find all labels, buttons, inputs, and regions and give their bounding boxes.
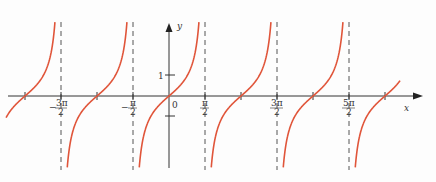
tan-branch-5	[355, 81, 400, 168]
origin-label: 0	[172, 100, 178, 110]
tick-label-3pi-2: 3π 2	[270, 98, 283, 117]
svg-text:2: 2	[58, 107, 64, 117]
plot-area: y x 1 0 − 3π 2 − π 2 π 2 3π 2 5π 2	[0, 0, 436, 182]
y-axis-arrow-icon	[166, 23, 173, 32]
x-axis-label: x	[404, 103, 409, 113]
tangent-graph: y x 1 0 − 3π 2 − π 2 π 2 3π 2 5π 2	[0, 0, 436, 182]
y-axis-label: y	[176, 21, 183, 31]
y-tick-label-1: 1	[158, 71, 164, 81]
tan-curves	[6, 22, 400, 167]
svg-text:−: −	[121, 102, 129, 112]
tick-label-5pi-2: 5π 2	[342, 98, 355, 117]
tick-label-neg-3pi-2: − 3π 2	[49, 98, 68, 117]
x-axis-arrow-icon	[413, 93, 423, 100]
svg-text:2: 2	[202, 107, 208, 117]
svg-text:2: 2	[346, 107, 352, 117]
tick-label-pi-2: π 2	[200, 98, 209, 117]
tick-label-neg-pi-2: − π 2	[121, 98, 137, 117]
svg-text:2: 2	[130, 107, 136, 117]
tan-branch-0	[6, 22, 55, 118]
svg-text:2: 2	[274, 107, 280, 117]
